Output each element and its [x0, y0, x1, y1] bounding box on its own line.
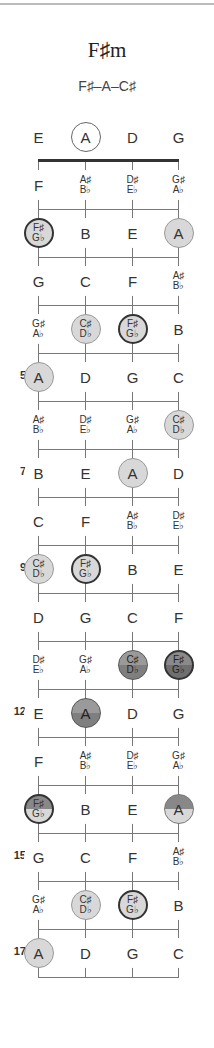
- note-name: E♭: [80, 425, 92, 435]
- note-name: D: [173, 466, 184, 481]
- note-marker: C: [164, 362, 194, 392]
- note-name: G: [80, 610, 92, 625]
- note-name: D: [127, 706, 138, 721]
- note-marker: D♯E♭: [24, 650, 54, 680]
- note-name: D: [80, 370, 91, 385]
- note-marker: G: [71, 602, 101, 632]
- note-name: E: [33, 130, 43, 145]
- note-marker: D: [118, 122, 148, 152]
- note-name: D: [80, 946, 91, 961]
- fret-line: [38, 641, 179, 642]
- note-marker: E: [71, 458, 101, 488]
- fret-line: [38, 977, 179, 978]
- fret-line: [38, 833, 179, 834]
- note-name: F: [128, 274, 137, 289]
- fret-number: 12: [6, 705, 26, 717]
- note-name: B: [127, 562, 137, 577]
- note-name: C: [127, 610, 138, 625]
- note-name: B♭: [173, 857, 185, 867]
- note-marker: A♯B♭: [118, 506, 148, 536]
- note-marker: C♯D♭: [24, 554, 54, 584]
- note-marker: C: [71, 266, 101, 296]
- note-marker: F♯G♭: [24, 218, 54, 248]
- note-marker: G: [24, 842, 54, 872]
- note-marker: D: [71, 938, 101, 968]
- note-marker: D: [71, 362, 101, 392]
- fret-line: [38, 929, 179, 930]
- note-marker: A♯B♭: [24, 410, 54, 440]
- note-name: G♭: [126, 329, 139, 339]
- nut: [38, 159, 179, 162]
- note-marker: G♯A♭: [118, 410, 148, 440]
- note-name: F: [128, 850, 137, 865]
- note-marker: D♯E♭: [164, 506, 194, 536]
- note-name: C: [173, 370, 184, 385]
- note-marker: G♯A♭: [164, 170, 194, 200]
- fret-line: [38, 545, 179, 546]
- note-name: B♭: [80, 761, 92, 771]
- note-marker: F: [118, 266, 148, 296]
- note-marker: G: [164, 698, 194, 728]
- note-name: C: [173, 946, 184, 961]
- fret-number: 9: [6, 561, 26, 573]
- note-name: B: [33, 466, 43, 481]
- note-name: E: [127, 802, 137, 817]
- note-name: D♭: [32, 569, 44, 579]
- note-marker: C♯D♭: [71, 890, 101, 920]
- note-marker: D♯E♭: [71, 410, 101, 440]
- note-marker: A: [164, 218, 194, 248]
- note-name: B: [80, 802, 90, 817]
- note-name: E♭: [173, 521, 185, 531]
- fret-number: 17: [6, 945, 26, 957]
- note-marker: B: [71, 218, 101, 248]
- note-name: B: [173, 898, 183, 913]
- note-marker: F♯G♭: [24, 794, 54, 824]
- note-name: F: [34, 178, 43, 193]
- note-name: B♭: [127, 521, 139, 531]
- fret-line: [38, 449, 179, 450]
- fret-line: [38, 785, 179, 786]
- note-marker: G♯A♭: [71, 650, 101, 680]
- note-marker: A: [24, 362, 54, 392]
- note-name: A: [173, 802, 183, 817]
- note-marker: F: [71, 506, 101, 536]
- note-marker: A: [164, 794, 194, 824]
- fret-line: [38, 305, 179, 306]
- note-name: D: [33, 610, 44, 625]
- note-name: A♭: [33, 905, 45, 915]
- note-name: E♭: [127, 185, 139, 195]
- note-name: A: [127, 466, 137, 481]
- note-marker: A: [71, 122, 101, 152]
- note-name: G♭: [32, 233, 45, 243]
- note-name: D♭: [172, 425, 184, 435]
- note-name: G: [33, 274, 45, 289]
- note-name: D♭: [126, 665, 138, 675]
- note-marker: G: [164, 122, 194, 152]
- note-name: C: [80, 274, 91, 289]
- note-name: A: [173, 226, 183, 241]
- note-marker: F: [164, 602, 194, 632]
- fret-line: [38, 401, 179, 402]
- note-name: D: [127, 130, 138, 145]
- fret-number: 5: [6, 369, 26, 381]
- fret-number: 15: [6, 849, 26, 861]
- note-marker: B: [164, 314, 194, 344]
- note-name: B♭: [33, 425, 45, 435]
- note-marker: A♯B♭: [71, 170, 101, 200]
- note-name: G♭: [79, 569, 92, 579]
- note-name: E♭: [33, 665, 45, 675]
- note-marker: E: [24, 698, 54, 728]
- note-marker: F♯G♭: [118, 890, 148, 920]
- note-name: E: [33, 706, 43, 721]
- note-marker: D♯E♭: [118, 746, 148, 776]
- note-name: C: [33, 514, 44, 529]
- note-name: C: [80, 850, 91, 865]
- note-marker: G♯A♭: [164, 746, 194, 776]
- fretboard-diagram: EADGFA♯B♭D♯E♭G♯A♭F♯G♭BEAGCFA♯B♭G♯A♭C♯D♭F…: [0, 0, 214, 1048]
- note-name: A: [80, 130, 90, 145]
- note-marker: A: [71, 698, 101, 728]
- note-name: A♭: [33, 329, 45, 339]
- note-name: G: [173, 706, 185, 721]
- note-marker: C: [164, 938, 194, 968]
- note-name: F: [81, 514, 90, 529]
